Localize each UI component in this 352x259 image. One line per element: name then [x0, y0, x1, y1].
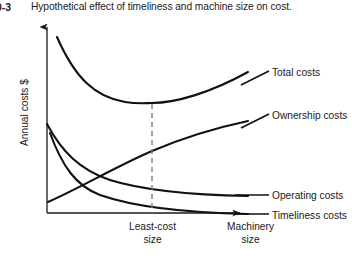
least-cost-size-label-line1: Least-cost [110, 221, 195, 234]
total-costs-curve [57, 37, 248, 103]
ownership-costs-curve [48, 121, 248, 202]
operating-costs-label: Operating costs [272, 190, 343, 201]
y-axis-label: Annual costs $ [19, 68, 30, 158]
least-cost-size-label-line2: size [110, 234, 195, 247]
total-costs-label: Total costs [272, 67, 320, 78]
ownership-costs-label: Ownership costs [272, 110, 347, 121]
figure-container: 0-3 Hypothetical effect of timeliness an… [0, 0, 352, 259]
least-cost-size-label: Least-cost size [110, 221, 195, 246]
x-axis-label: Machinery size [208, 221, 293, 246]
operating-costs-curve [47, 124, 248, 196]
x-axis-label-line1: Machinery [208, 221, 293, 234]
timeliness-costs-label: Timeliness costs [272, 210, 347, 221]
x-axis-label-line2: size [208, 234, 293, 247]
timeliness-costs-curve [50, 133, 248, 214]
